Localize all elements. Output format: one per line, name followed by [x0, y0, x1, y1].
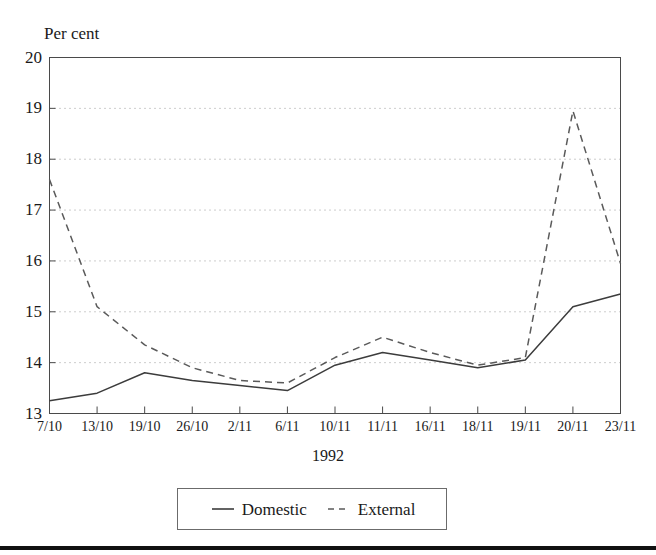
chart-legend: Domestic External	[177, 488, 447, 530]
legend-item-external: External	[327, 501, 416, 518]
x-tick-label: 23/11	[605, 419, 636, 435]
y-tick-label: 16	[10, 252, 42, 269]
legend-label-domestic: Domestic	[242, 501, 307, 518]
y-tick-label: 19	[10, 99, 42, 116]
x-axis-title: 1992	[0, 447, 656, 465]
y-tick-label: 17	[10, 201, 42, 218]
x-tick-label: 2/11	[228, 419, 252, 435]
legend-item-domestic: Domestic	[211, 501, 307, 518]
y-tick-label: 14	[10, 354, 42, 371]
x-tick-label: 26/10	[176, 419, 208, 435]
y-tick-label: 15	[10, 303, 42, 320]
x-tick-label: 13/10	[81, 419, 113, 435]
solid-line-swatch	[211, 504, 235, 514]
legend-label-external: External	[358, 501, 416, 518]
series-line-external	[50, 111, 621, 383]
gridlines-group	[50, 108, 621, 362]
plot-area	[0, 0, 656, 555]
axes-group	[50, 58, 621, 414]
x-tick-label: 18/11	[462, 419, 493, 435]
plot-frame	[50, 58, 621, 414]
x-tick-label: 19/11	[510, 419, 541, 435]
x-tick-label: 19/10	[129, 419, 161, 435]
y-tick-label: 18	[10, 150, 42, 167]
dashed-line-swatch	[327, 504, 351, 514]
footer-rule	[0, 546, 656, 550]
x-tick-label: 6/11	[275, 419, 299, 435]
x-tick-marks	[50, 407, 621, 414]
x-tick-label: 10/11	[319, 419, 350, 435]
x-tick-label: 7/10	[37, 419, 62, 435]
x-tick-label: 20/11	[557, 419, 588, 435]
y-tick-label: 20	[10, 49, 42, 66]
y-tick-marks	[50, 58, 56, 414]
x-tick-label: 16/11	[414, 419, 445, 435]
x-tick-label: 11/11	[367, 419, 398, 435]
legend-entries: Domestic External	[178, 489, 448, 529]
data-series-group	[50, 111, 621, 401]
chart-figure: Per cent 1314151617181920 7/1013/1019/10…	[0, 0, 656, 555]
